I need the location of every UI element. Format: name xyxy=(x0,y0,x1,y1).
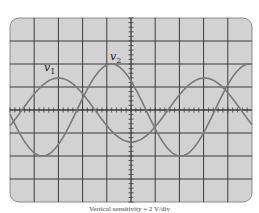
oscilloscope-screen: v1v2 xyxy=(0,0,259,213)
caption: Vertical sensitivity = 2 V/div xyxy=(0,205,259,213)
